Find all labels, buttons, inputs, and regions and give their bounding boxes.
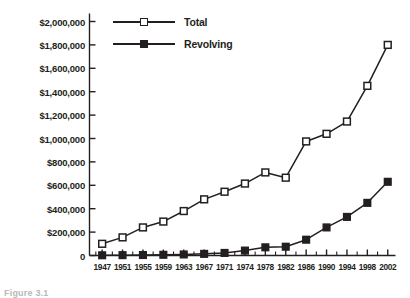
x-axis-tick-label: 1959 bbox=[155, 262, 172, 272]
x-axis-tick-label: 1963 bbox=[175, 262, 192, 272]
x-axis-tick-label: 1951 bbox=[114, 262, 131, 272]
x-axis-tick-label: 1978 bbox=[257, 262, 274, 272]
x-axis-tick-label: 1986 bbox=[298, 262, 315, 272]
x-axis-tick-label: 1998 bbox=[359, 262, 376, 272]
x-axis-tick-label: 2002 bbox=[379, 262, 396, 272]
x-axis-tick-label: 1990 bbox=[318, 262, 335, 272]
x-axis-tick-label: 1994 bbox=[338, 262, 355, 272]
legend-item-revolving: Revolving bbox=[113, 33, 232, 55]
x-axis-tick-label: 1967 bbox=[196, 262, 213, 272]
legend-item-total: Total bbox=[113, 11, 232, 33]
legend-label-total: Total bbox=[184, 16, 207, 28]
legend-label-revolving: Revolving bbox=[184, 38, 232, 50]
legend-line-revolving bbox=[113, 43, 175, 45]
x-axis-tick-label: 1971 bbox=[216, 262, 233, 272]
figure-caption: Figure 3.1 bbox=[4, 288, 49, 298]
x-axis-tick-label: 1947 bbox=[94, 262, 111, 272]
filled-square-marker-icon bbox=[140, 40, 148, 48]
x-axis-tick-label: 1955 bbox=[134, 262, 151, 272]
chart-legend: Total Revolving bbox=[113, 11, 232, 55]
x-axis-tick-label: 1974 bbox=[236, 262, 253, 272]
legend-line-total bbox=[113, 21, 175, 23]
open-square-marker-icon bbox=[140, 18, 148, 26]
x-axis-tick-label: 1982 bbox=[277, 262, 294, 272]
